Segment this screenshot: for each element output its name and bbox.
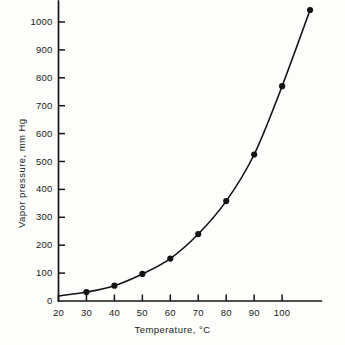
y-axis-title: Vapor pressure, mm Hg [16,118,27,228]
data-point [307,7,313,13]
y-tick-label: 1000 [31,16,53,27]
vapor-pressure-chart-figure: 01002003004005006007008009001000 2030405… [0,0,345,345]
y-tick-label: 0 [47,295,52,306]
data-point [111,283,117,289]
axes-group [59,1,322,301]
y-tick-label: 500 [36,156,52,167]
y-tick-label: 900 [36,44,52,55]
y-axis-tick-marks [59,22,66,273]
vapor-pressure-curve [59,10,311,296]
x-tick-label: 100 [262,307,302,318]
y-tick-label: 700 [36,100,52,111]
y-tick-label: 600 [36,128,52,139]
y-tick-label: 100 [36,267,52,278]
data-point [83,289,89,295]
data-point [279,83,285,89]
y-tick-label: 800 [36,72,52,83]
data-point-markers [83,7,313,295]
data-point [251,151,257,157]
x-axis-tick-marks [59,295,283,302]
data-point [223,198,229,204]
y-tick-label: 200 [36,239,52,250]
y-tick-label: 300 [36,211,52,222]
data-point [195,231,201,237]
data-point [139,271,145,277]
data-point [167,255,173,261]
x-axis-title: Temperature, °C [0,324,345,335]
y-tick-label: 400 [36,183,52,194]
